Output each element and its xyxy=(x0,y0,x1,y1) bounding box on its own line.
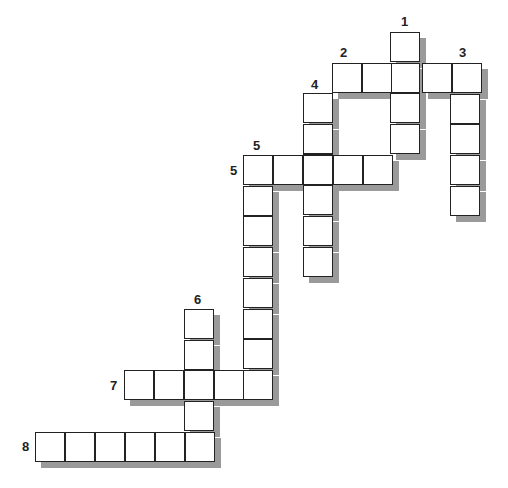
crossword-cell[interactable] xyxy=(422,63,452,93)
crossword-cell[interactable] xyxy=(243,186,273,216)
crossword-board: 123455678 xyxy=(0,0,508,488)
crossword-cell[interactable] xyxy=(243,370,273,400)
crossword-cell[interactable] xyxy=(184,309,214,339)
crossword-cell[interactable] xyxy=(124,370,154,400)
crossword-cell[interactable] xyxy=(390,93,420,123)
crossword-cell[interactable] xyxy=(390,124,420,154)
crossword-cell[interactable] xyxy=(303,155,333,185)
crossword-cell[interactable] xyxy=(214,370,244,400)
clue-number-7-across: 7 xyxy=(110,379,117,392)
crossword-cell[interactable] xyxy=(154,370,184,400)
crossword-cell[interactable] xyxy=(243,309,273,339)
crossword-cell[interactable] xyxy=(390,32,420,62)
crossword-cell[interactable] xyxy=(450,124,480,154)
crossword-cell[interactable] xyxy=(184,340,214,370)
clue-number-1-down: 1 xyxy=(401,15,408,28)
crossword-cell[interactable] xyxy=(184,370,214,400)
crossword-cell[interactable] xyxy=(332,63,362,93)
crossword-cell[interactable] xyxy=(125,432,155,462)
clue-number-6-down: 6 xyxy=(194,293,201,306)
crossword-cell[interactable] xyxy=(65,432,95,462)
crossword-cell[interactable] xyxy=(450,186,480,216)
crossword-cell[interactable] xyxy=(362,63,392,93)
crossword-cell[interactable] xyxy=(363,155,393,185)
crossword-cell[interactable] xyxy=(185,432,215,462)
crossword-cell[interactable] xyxy=(303,216,333,246)
clue-number-5-down: 5 xyxy=(253,139,260,152)
crossword-cell[interactable] xyxy=(273,155,303,185)
crossword-cell[interactable] xyxy=(243,216,273,246)
crossword-cell[interactable] xyxy=(243,278,273,308)
crossword-cell[interactable] xyxy=(303,247,333,277)
crossword-cell[interactable] xyxy=(243,155,273,185)
crossword-cell[interactable] xyxy=(243,247,273,277)
clue-number-2-across: 2 xyxy=(340,46,347,59)
crossword-cell[interactable] xyxy=(333,155,363,185)
crossword-cell[interactable] xyxy=(452,63,482,93)
crossword-cell[interactable] xyxy=(243,339,273,369)
crossword-cell[interactable] xyxy=(184,401,214,431)
crossword-cell[interactable] xyxy=(450,155,480,185)
clue-number-4-down: 4 xyxy=(311,78,318,91)
crossword-cell[interactable] xyxy=(303,93,333,123)
crossword-cell[interactable] xyxy=(390,63,420,93)
crossword-cell[interactable] xyxy=(303,124,333,154)
crossword-cell[interactable] xyxy=(155,432,185,462)
clue-number-5-across: 5 xyxy=(230,164,237,177)
crossword-cell[interactable] xyxy=(35,432,65,462)
clue-number-8-across: 8 xyxy=(22,440,29,453)
clue-number-3-down: 3 xyxy=(459,46,466,59)
crossword-cell[interactable] xyxy=(450,94,480,124)
crossword-cell[interactable] xyxy=(95,432,125,462)
crossword-cell[interactable] xyxy=(303,185,333,215)
